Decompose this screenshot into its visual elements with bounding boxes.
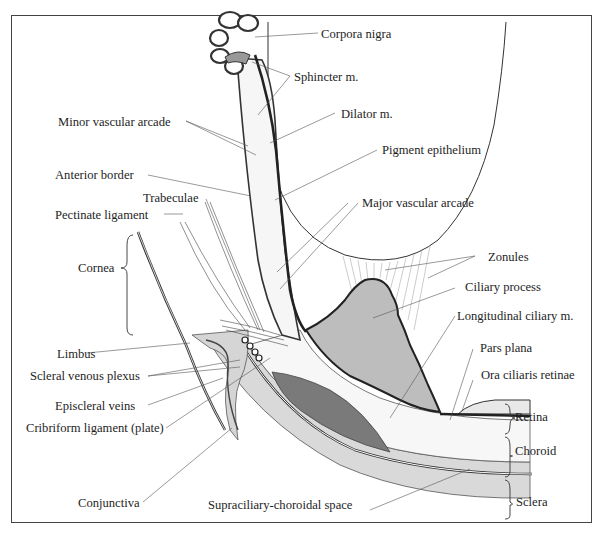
- label-minor-vascular-arcade: Minor vascular arcade: [58, 115, 171, 129]
- label-longitudinal-ciliary-muscle: Longitudinal ciliary m.: [457, 309, 573, 323]
- label-pars-plana: Pars plana: [480, 341, 532, 355]
- label-ora-ciliaris-retinae: Ora ciliaris retinae: [481, 368, 575, 382]
- label-supraciliary-choroidal-space: Supraciliary-choroidal space: [208, 498, 352, 512]
- label-major-vascular-arcade: Major vascular arcade: [362, 196, 474, 210]
- label-anterior-border: Anterior border: [55, 168, 134, 182]
- label-pigment-epithelium: Pigment epithelium: [382, 143, 481, 157]
- label-episcleral-veins: Episcleral veins: [55, 399, 135, 413]
- label-corpora-nigra: Corpora nigra: [321, 27, 391, 41]
- label-dilator-muscle: Dilator m.: [341, 107, 393, 121]
- label-cornea: Cornea: [78, 261, 114, 275]
- label-choroid: Choroid: [515, 444, 556, 458]
- label-zonules: Zonules: [488, 250, 529, 264]
- label-limbus: Limbus: [57, 347, 95, 361]
- label-conjunctiva: Conjunctiva: [78, 496, 140, 510]
- label-sphincter-muscle: Sphincter m.: [294, 70, 358, 84]
- label-pectinate-ligament: Pectinate ligament: [55, 208, 148, 222]
- label-sclera: Sclera: [516, 495, 547, 509]
- lens-outline: [268, 22, 506, 260]
- label-scleral-venous-plexus: Scleral venous plexus: [30, 369, 140, 383]
- label-retina: Retina: [515, 410, 548, 424]
- cornea-layer: [138, 232, 225, 430]
- label-cribriform-ligament: Cribriform ligament (plate): [26, 421, 164, 435]
- label-ciliary-process: Ciliary process: [465, 280, 541, 294]
- label-trabeculae: Trabeculae: [143, 191, 199, 205]
